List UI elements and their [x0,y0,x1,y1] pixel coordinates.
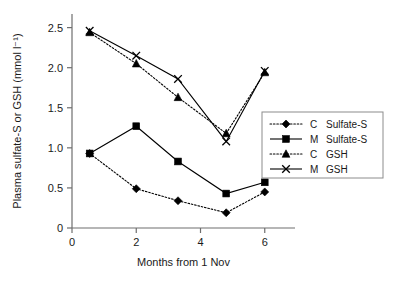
legend-group-label: C [310,119,317,130]
y-tick-label: 1.5 [48,102,63,114]
series-line [90,31,265,142]
legend-group-label: C [310,149,317,160]
marker-diamond [261,188,269,196]
marker-triangle [174,93,182,100]
series-c-gsh [86,28,269,136]
marker-square [223,190,230,197]
marker-diamond [174,197,182,205]
y-tick-label: 0 [57,222,63,234]
y-tick-label: 2.0 [48,62,63,74]
marker-square [283,136,290,143]
y-tick-label: 2.5 [48,22,63,34]
y-axis-title: Plasma sulfate-S or GSH (mmol l⁻¹) [11,33,23,208]
marker-square [133,123,140,130]
legend-measure-label: GSH [326,149,348,160]
y-tick-label: 1.0 [48,142,63,154]
marker-square [86,150,93,157]
legend-measure-label: Sulfate-S [326,134,367,145]
y-tick-label: 0.5 [48,182,63,194]
marker-square [261,179,268,186]
chart-figure: 024600.51.01.52.02.5Months from 1 NovPla… [0,0,395,287]
data-series [86,27,269,217]
series-m-gsh [86,27,269,145]
legend-measure-label: Sulfate-S [326,119,367,130]
legend-measure-label: GSH [326,164,348,175]
series-m-sulfate-s [86,123,268,197]
x-tick-label: 6 [262,236,268,248]
chart-legend: CSulfate-SMSulfate-SCGSHMGSH [262,112,383,178]
legend-group-label: M [310,164,318,175]
marker-diamond [222,209,230,217]
x-tick-label: 4 [197,236,203,248]
marker-square [175,158,182,165]
legend-group-label: M [310,134,318,145]
x-tick-label: 2 [133,236,139,248]
marker-triangle [132,59,140,66]
line-chart: 024600.51.01.52.02.5Months from 1 NovPla… [0,0,395,287]
x-tick-label: 0 [69,236,75,248]
x-axis-title: Months from 1 Nov [137,256,230,268]
